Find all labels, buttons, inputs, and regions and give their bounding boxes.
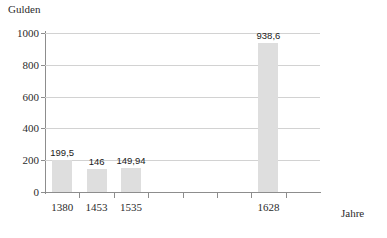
gridline [45,128,320,129]
bar-value-label: 938,6 [238,31,298,41]
x-axis-title: Jahre [341,207,364,219]
bar [258,43,278,192]
x-axis-tick [79,193,80,198]
bar [87,169,107,192]
x-axis-tick [114,193,115,198]
y-axis-tick [41,160,45,161]
y-axis-tick [41,97,45,98]
plot-area: 199,5146149,94938,6 [45,33,320,192]
y-axis-tick-label: 800 [0,60,39,71]
x-axis-category-label: 1535 [101,201,161,214]
gridline [45,97,320,98]
y-axis-tick-label: 0 [0,187,39,198]
bar-chart: Gulden Jahre 02004006008001000 199,51461… [0,0,387,238]
bar [121,168,141,192]
y-axis-tick-label: 1000 [0,28,39,39]
y-axis-tick-labels: 02004006008001000 [0,33,39,192]
x-axis-tick [148,193,149,198]
y-axis-tick [41,33,45,34]
y-axis-tick-label: 400 [0,123,39,134]
x-axis-tick [251,193,252,198]
x-axis-tick [286,193,287,198]
bar-value-label: 149,94 [101,156,161,166]
x-axis-category-label: 1628 [238,201,298,214]
x-axis-tick [217,193,218,198]
x-axis-ticks [45,193,321,199]
y-axis-title: Gulden [8,3,40,15]
y-axis-tick-label: 600 [0,92,39,103]
x-axis-tick-labels: 1380145315351628 [45,201,321,217]
gridline [45,65,320,66]
y-axis-tick [41,65,45,66]
x-axis-tick [183,193,184,198]
y-axis-tick [41,128,45,129]
